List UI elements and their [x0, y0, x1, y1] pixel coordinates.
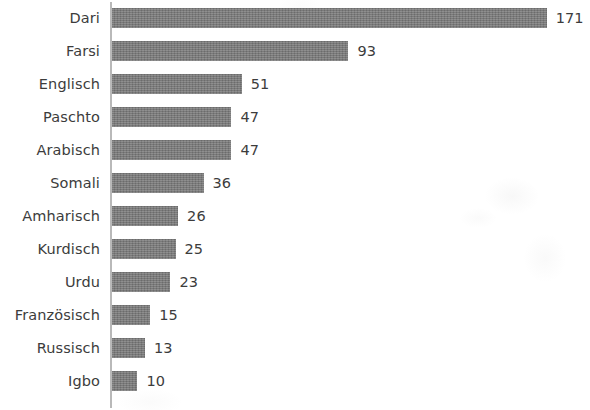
bar-value-label: 26 [187, 209, 206, 224]
category-label: Kurdisch [0, 242, 100, 257]
category-label: Paschto [0, 110, 100, 125]
bar [112, 140, 231, 160]
bar-row: Igbo10 [0, 371, 590, 391]
category-label: Arabisch [0, 143, 100, 158]
bar-value-label: 47 [240, 143, 259, 158]
bar-row: Farsi93 [0, 41, 590, 61]
bar [112, 8, 547, 28]
bar [112, 41, 348, 61]
bar-row: Kurdisch25 [0, 239, 590, 259]
category-label: Französisch [0, 308, 100, 323]
bar-row: Urdu23 [0, 272, 590, 292]
category-axis-line [110, 2, 112, 408]
bar [112, 272, 170, 292]
category-label: Urdu [0, 275, 100, 290]
category-label: Igbo [0, 374, 100, 389]
category-label: Amharisch [0, 209, 100, 224]
bar-value-label: 47 [240, 110, 259, 125]
category-label: Englisch [0, 77, 100, 92]
bar-value-label: 51 [251, 77, 270, 92]
bar-row: Paschto47 [0, 107, 590, 127]
bar-row: Dari171 [0, 8, 590, 28]
bar [112, 107, 231, 127]
bar-chart: Dari171Farsi93Englisch51Paschto47Arabisc… [0, 0, 590, 410]
bar [112, 74, 242, 94]
bar [112, 305, 150, 325]
bar-row: Russisch13 [0, 338, 590, 358]
bar-row: Amharisch26 [0, 206, 590, 226]
bar [112, 206, 178, 226]
category-label: Somali [0, 176, 100, 191]
bar-value-label: 10 [146, 374, 165, 389]
category-label: Dari [0, 11, 100, 26]
bar-rows-container: Dari171Farsi93Englisch51Paschto47Arabisc… [0, 0, 590, 410]
bar-value-label: 15 [159, 308, 178, 323]
bar [112, 239, 176, 259]
bar-value-label: 171 [556, 11, 584, 26]
category-label: Farsi [0, 44, 100, 59]
bar-row: Englisch51 [0, 74, 590, 94]
bar-row: Arabisch47 [0, 140, 590, 160]
bar [112, 173, 204, 193]
bar-row: Somali36 [0, 173, 590, 193]
bar [112, 371, 137, 391]
bar-row: Französisch15 [0, 305, 590, 325]
bar-value-label: 23 [179, 275, 198, 290]
bar-value-label: 13 [154, 341, 173, 356]
category-label: Russisch [0, 341, 100, 356]
bar-value-label: 25 [185, 242, 204, 257]
bar [112, 338, 145, 358]
bar-value-label: 93 [357, 44, 376, 59]
bar-value-label: 36 [213, 176, 232, 191]
